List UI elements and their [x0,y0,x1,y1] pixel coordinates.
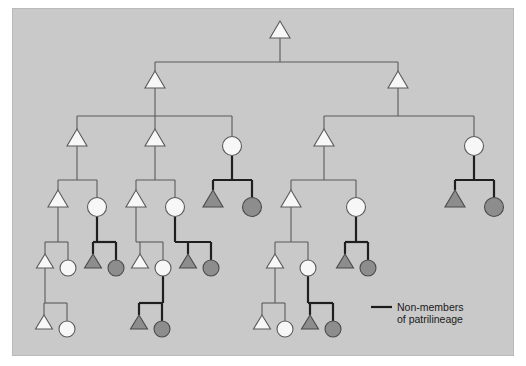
male-triangle-nonmember[interactable] [302,315,319,329]
male-triangle-member[interactable] [36,315,53,329]
female-circle-nonmember[interactable] [154,321,170,337]
male-triangle-member[interactable] [37,254,54,268]
diagram-stage: Non-members of patrilineage [0,0,526,366]
descent-link [455,156,494,198]
male-triangle-nonmember[interactable] [203,190,223,207]
descent-link [45,207,68,260]
descent-link [275,207,308,260]
male-triangle-member[interactable] [48,190,68,207]
male-triangle-member[interactable] [281,190,301,207]
legend-label-line2: of patrilineage [397,313,463,326]
male-triangle-member[interactable] [267,254,284,268]
male-triangle-member[interactable] [270,21,290,38]
descent-link [93,217,116,261]
descent-link [139,276,163,321]
female-circle-nonmember[interactable] [243,198,262,217]
female-circle-nonmember[interactable] [360,260,376,276]
male-triangle-nonmember[interactable] [445,190,465,207]
male-triangle-nonmember[interactable] [85,254,102,268]
female-circle-member[interactable] [166,198,185,217]
descent-link [44,268,67,321]
female-circle-member[interactable] [277,321,293,337]
male-triangle-member[interactable] [388,71,408,88]
female-circle-nonmember[interactable] [325,321,341,337]
female-circle-member[interactable] [223,137,242,156]
male-triangle-member[interactable] [126,190,146,207]
female-circle-member[interactable] [347,198,366,217]
female-circle-member[interactable] [300,260,316,276]
female-circle-member[interactable] [60,260,76,276]
male-triangle-member[interactable] [254,315,271,329]
descent-link [175,217,211,261]
female-circle-member[interactable] [88,198,107,217]
male-triangle-nonmember[interactable] [337,254,354,268]
descent-link [291,146,356,198]
female-circle-member[interactable] [155,260,171,276]
male-triangle-member[interactable] [145,129,165,146]
descent-link [345,217,368,261]
kinship-nodes-layer [36,21,504,337]
male-triangle-member[interactable] [67,129,87,146]
descent-link [213,156,252,198]
male-triangle-member[interactable] [132,254,149,268]
female-circle-nonmember[interactable] [485,198,504,217]
male-triangle-nonmember[interactable] [131,315,148,329]
descent-link [262,268,285,321]
female-circle-member[interactable] [59,321,75,337]
male-triangle-nonmember[interactable] [180,254,197,268]
female-circle-nonmember[interactable] [203,260,219,276]
descent-link [136,207,163,260]
descent-link [58,146,97,198]
descent-link [155,38,398,71]
descent-link [324,88,474,137]
male-triangle-member[interactable] [314,129,334,146]
legend-label-line1: Non-members [397,301,464,314]
female-circle-nonmember[interactable] [108,260,124,276]
descent-links-layer [44,38,494,321]
male-triangle-member[interactable] [145,71,165,88]
descent-link [308,276,333,321]
female-circle-member[interactable] [465,137,484,156]
descent-link [136,146,175,198]
